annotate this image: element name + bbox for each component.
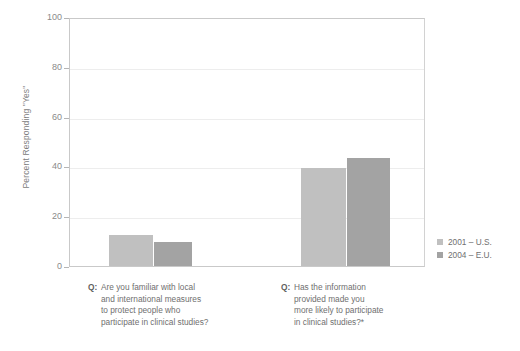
y-axis-tick-label: 100 <box>30 13 62 22</box>
gridline <box>70 69 424 70</box>
bar <box>347 158 390 266</box>
bar <box>109 235 153 266</box>
y-axis-tick-mark <box>64 267 69 268</box>
y-axis-tick-label: 80 <box>30 63 62 72</box>
legend-item: 2004 – E.U. <box>437 249 492 260</box>
category-label-line: participate in clinical studies? <box>101 317 208 329</box>
y-axis-tick-label: 20 <box>30 212 62 221</box>
chart-legend: 2001 – U.S.2004 – E.U. <box>437 236 492 262</box>
legend-label: 2004 – E.U. <box>448 250 492 260</box>
category-label-line: and international measures <box>101 294 208 306</box>
category-label-line: provided made you <box>294 294 383 306</box>
category-label-line: more likely to participate <box>294 305 383 317</box>
question-prefix: Q: <box>281 282 290 294</box>
category-label-line: Are you familiar with local <box>101 282 208 294</box>
legend-swatch <box>437 239 443 245</box>
question-prefix: Q: <box>88 282 97 294</box>
bar <box>154 242 192 266</box>
y-axis-tick-label: 40 <box>30 162 62 171</box>
category-label-line: Has the information <box>294 282 383 294</box>
legend-swatch <box>437 252 443 258</box>
y-axis-tick-label: 0 <box>30 262 62 271</box>
x-axis-category-label: Q:Has the informationprovided made youmo… <box>281 282 383 328</box>
legend-label: 2001 – U.S. <box>448 237 492 247</box>
y-axis-tick-label: 60 <box>30 113 62 122</box>
legend-item: 2001 – U.S. <box>437 236 492 247</box>
bar-chart: Percent Responding "Yes" 020406080100 Q:… <box>0 0 520 351</box>
x-axis-category-label: Q:Are you familiar with localand interna… <box>88 282 208 328</box>
category-label-line: to protect people who <box>101 305 208 317</box>
plot-area <box>69 18 425 267</box>
category-label-line: in clinical studies?* <box>294 317 383 329</box>
gridline <box>70 119 424 120</box>
bar <box>301 168 346 266</box>
